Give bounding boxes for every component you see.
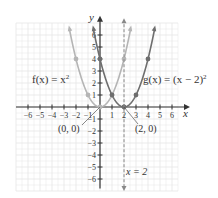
f-function-label: f(x) = x2	[32, 73, 70, 86]
x-tick-label: 6	[170, 111, 174, 120]
y-tick-label: −2	[87, 127, 96, 136]
f-label-text: f(x) = x	[32, 73, 66, 86]
vertical-line-label: x = 2	[125, 166, 147, 177]
vertex-f-label: (0, 0)	[58, 123, 80, 135]
x-tick-label: 4	[146, 111, 150, 120]
x-tick-label: −4	[48, 111, 57, 120]
x-tick-label: −3	[60, 111, 69, 120]
data-point-marker	[74, 57, 79, 62]
vertex-g-label: (2, 0)	[135, 123, 157, 135]
g-function-label: g(x) = (x − 2)2	[143, 73, 207, 86]
data-point-marker	[86, 93, 91, 98]
y-tick-label: −3	[87, 139, 96, 148]
x-tick-label: 3	[134, 111, 138, 120]
y-tick-label: −6	[87, 175, 96, 184]
x-tick-label: 1	[110, 111, 114, 120]
data-point-marker	[146, 57, 151, 62]
x-axis-label: x	[182, 107, 188, 119]
y-axis-label: y	[88, 11, 94, 23]
y-tick-label: −4	[87, 151, 96, 160]
y-tick-label: 5	[92, 43, 96, 52]
y-tick-label: 3	[92, 67, 96, 76]
x-tick-label: −5	[36, 111, 45, 120]
data-point-marker	[110, 93, 115, 98]
data-point-marker	[134, 93, 139, 98]
axes	[16, 16, 190, 189]
y-tick-label: 2	[92, 79, 96, 88]
y-tick-label: −5	[87, 163, 96, 172]
data-point-marker	[98, 57, 103, 62]
x-tick-label: −2	[72, 111, 81, 120]
g-label-text: g(x) = (x − 2)	[143, 73, 203, 86]
y-tick-label: 4	[92, 55, 96, 64]
x-tick-label: 5	[158, 111, 162, 120]
y-tick-label: 1	[92, 91, 96, 100]
x-tick-label: −6	[24, 111, 33, 120]
g-label-sup: 2	[203, 73, 207, 81]
f-label-sup: 2	[66, 73, 70, 81]
parabola-chart: −6−5−4−3−2−1123456−6−5−4−3−2−1123456 x y…	[0, 0, 218, 198]
y-tick-label: −1	[87, 115, 96, 124]
